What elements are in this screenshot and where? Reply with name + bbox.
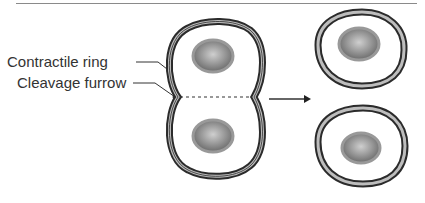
arrow-icon [269,95,311,103]
nucleus [342,133,380,163]
nucleus-top [193,40,233,72]
dividing-cell [169,21,262,176]
cytokinesis-diagram [0,0,425,203]
daughter-cell-bottom [318,108,405,184]
daughter-cell-top [318,12,404,86]
nucleus-bottom [193,120,233,152]
nucleus [339,28,379,60]
